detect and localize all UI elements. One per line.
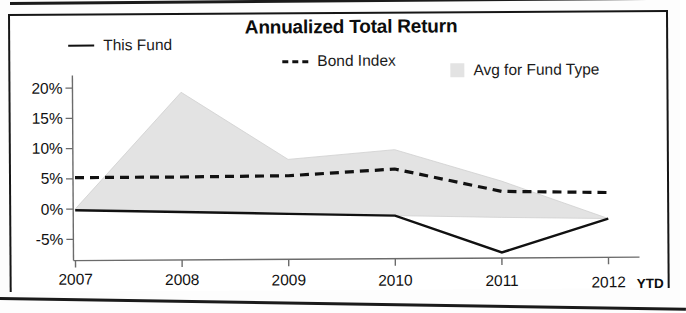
y-axis-tick-label: 15% [11, 109, 63, 127]
plot-area [10, 12, 670, 292]
x-axis-tick-label: 2009 [272, 271, 307, 289]
y-axis-tick-label: 20% [10, 79, 62, 97]
y-axis-tick-label: 10% [11, 140, 63, 158]
x-axis-tick-label: 2007 [58, 270, 93, 288]
page-edge-bottom [0, 297, 686, 311]
y-axis-tick-label: 5% [11, 170, 63, 188]
x-axis-tick-label: 2008 [165, 271, 200, 289]
chart-container: Annualized Total Return This Fund Bond I… [8, 10, 670, 292]
x-axis-tick-label: 2011 [485, 272, 518, 290]
chart-svg [10, 12, 670, 292]
y-axis-tick-label: -5% [11, 230, 63, 248]
x-axis-tick-label: 2012 [591, 273, 626, 291]
x-axis-ytd-label: YTD [637, 276, 664, 291]
y-axis-tick-label: 0% [11, 200, 63, 218]
x-axis-tick-label: 2010 [378, 272, 413, 290]
page-edge-top [10, 0, 678, 5]
